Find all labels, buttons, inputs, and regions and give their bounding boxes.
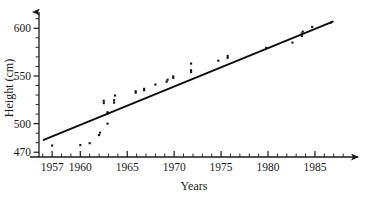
y-tick-label: 500 (14, 118, 32, 130)
x-axis-tick-labels: 1957196019651970197519801985 (41, 161, 327, 173)
y-axis-tick-labels: 470500550600 (14, 22, 32, 158)
data-point (311, 26, 313, 28)
data-point (227, 55, 229, 57)
data-point (135, 90, 137, 92)
x-axis-ticks (43, 151, 343, 157)
data-point (166, 81, 168, 83)
x-tick-label: 1975 (210, 161, 233, 173)
x-tick-label: 1960 (69, 161, 92, 173)
x-tick-label: 1957 (41, 161, 64, 173)
y-axis-ticks (34, 19, 40, 152)
data-point (190, 69, 192, 71)
data-point (301, 32, 303, 34)
data-point (154, 84, 156, 86)
data-point (217, 60, 219, 62)
x-tick-label: 1980 (257, 161, 280, 173)
data-point (79, 144, 81, 146)
data-point (301, 35, 303, 37)
data-point (190, 63, 192, 65)
x-axis-title: Years (181, 179, 208, 193)
data-point (114, 94, 116, 96)
data-point (167, 79, 169, 81)
data-point (227, 57, 229, 59)
data-point (98, 134, 100, 136)
data-point (99, 132, 101, 134)
data-point (302, 31, 304, 33)
data-point (113, 102, 115, 104)
x-tick-label: 1965 (116, 161, 139, 173)
data-point (106, 111, 108, 113)
axes-group (30, 12, 358, 157)
x-tick-label: 1970 (163, 161, 186, 173)
data-point (106, 123, 108, 125)
data-point (143, 88, 145, 90)
x-tick-label: 1985 (303, 161, 326, 173)
data-point (89, 142, 91, 144)
data-point (265, 47, 267, 49)
data-point (172, 75, 174, 77)
y-tick-label: 470 (14, 146, 32, 158)
plot-canvas: 470500550600 195719601965197019751980198… (0, 0, 372, 199)
y-tick-label: 600 (14, 22, 32, 34)
data-point (51, 145, 53, 147)
data-point (330, 22, 332, 24)
data-point (113, 99, 115, 101)
y-axis-title: Height (cm) (2, 59, 16, 117)
data-point (190, 71, 192, 73)
y-tick-label: 550 (14, 70, 32, 82)
data-point (103, 100, 105, 102)
data-points-group (51, 22, 332, 147)
data-point (103, 102, 105, 104)
data-point (291, 42, 293, 44)
regression-line (44, 22, 333, 140)
scatter-plot-figure: 470500550600 195719601965197019751980198… (0, 0, 372, 199)
